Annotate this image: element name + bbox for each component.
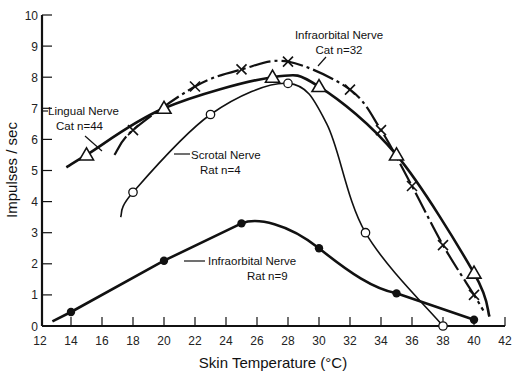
x-tick-label: 42 xyxy=(498,334,512,348)
y-tick-label: 9 xyxy=(31,40,38,54)
y-tick-label: 4 xyxy=(31,195,38,209)
series-label-line: Cat n=44 xyxy=(56,120,104,132)
triangle-marker xyxy=(312,80,326,92)
y-axis-title: Impulses / sec xyxy=(3,122,20,218)
series-labels: Infraorbital NerveCat n=32Lingual NerveC… xyxy=(42,29,383,282)
y-tick-label: 7 xyxy=(31,102,38,116)
triangle-marker xyxy=(467,266,481,278)
x-tick-label: 38 xyxy=(436,334,450,348)
leader-line xyxy=(318,57,326,66)
y-tick-label: 5 xyxy=(31,164,38,178)
series-label-line: Rat n=4 xyxy=(200,164,241,176)
filled-circle-marker xyxy=(392,289,400,297)
open-circle-marker xyxy=(361,229,369,237)
filled-circle-marker xyxy=(160,256,168,264)
x-marker xyxy=(128,125,138,135)
x-marker xyxy=(407,181,417,191)
label-infraorbital-rat: Infraorbital NerveRat n=9 xyxy=(208,255,296,282)
x-tick-label: 14 xyxy=(64,334,78,348)
y-tick-label: 2 xyxy=(31,257,38,271)
y-tick-label: 3 xyxy=(31,226,38,240)
curves xyxy=(52,61,489,326)
x-tick-label: 18 xyxy=(126,334,140,348)
x-marker xyxy=(469,290,479,300)
x-tick-label: 12 xyxy=(33,334,47,348)
y-tick-label: 8 xyxy=(31,71,38,85)
filled-circle-marker xyxy=(67,308,75,316)
series-label-line: Infraorbital Nerve xyxy=(295,29,383,41)
x-tick-label: 16 xyxy=(95,334,109,348)
x-tick-label: 26 xyxy=(250,334,264,348)
open-circle-marker xyxy=(206,110,214,118)
open-circle-marker xyxy=(284,79,292,87)
filled-circle-marker xyxy=(237,219,245,227)
open-circle-marker xyxy=(129,188,137,196)
series-label-line: Scrotal Nerve xyxy=(191,149,261,161)
filled-circle-marker xyxy=(470,316,478,324)
x-tick-label: 24 xyxy=(219,334,233,348)
x-tick-label: 30 xyxy=(312,334,326,348)
x-tick-label: 36 xyxy=(405,334,419,348)
x-tick-label: 34 xyxy=(374,334,388,348)
label-lingual-cat: Lingual NerveCat n=44 xyxy=(48,105,119,132)
infraorbital-cat-curve xyxy=(114,61,483,311)
open-circle-marker xyxy=(439,322,447,330)
y-tick-label: 0 xyxy=(31,320,38,334)
line-chart: 1214161820222426283032343638404201234567… xyxy=(0,0,525,380)
filled-circle-marker xyxy=(315,244,323,252)
x-marker xyxy=(438,240,448,250)
x-tick-label: 28 xyxy=(281,334,295,348)
series-label-line: Lingual Nerve xyxy=(48,105,119,117)
series-label-line: Rat n=9 xyxy=(247,270,288,282)
x-axis-title: Skin Temperature (°C) xyxy=(199,354,347,371)
triangle-marker xyxy=(80,148,94,160)
series-label-line: Infraorbital Nerve xyxy=(208,255,296,267)
series-label-line: Cat n=32 xyxy=(316,44,363,56)
label-scrotal-rat: Scrotal NerveRat n=4 xyxy=(191,149,261,176)
x-tick-label: 22 xyxy=(188,334,202,348)
x-marker xyxy=(376,125,386,135)
x-marker xyxy=(345,85,355,95)
y-tick-label: 6 xyxy=(31,133,38,147)
x-tick-label: 32 xyxy=(343,334,357,348)
y-tick-label: 10 xyxy=(25,9,39,23)
y-tick-label: 1 xyxy=(31,288,38,302)
x-tick-label: 20 xyxy=(157,334,171,348)
markers xyxy=(67,57,481,331)
x-tick-label: 40 xyxy=(467,334,481,348)
x-marker xyxy=(190,82,200,92)
label-infraorbital-cat: Infraorbital NerveCat n=32 xyxy=(295,29,383,56)
